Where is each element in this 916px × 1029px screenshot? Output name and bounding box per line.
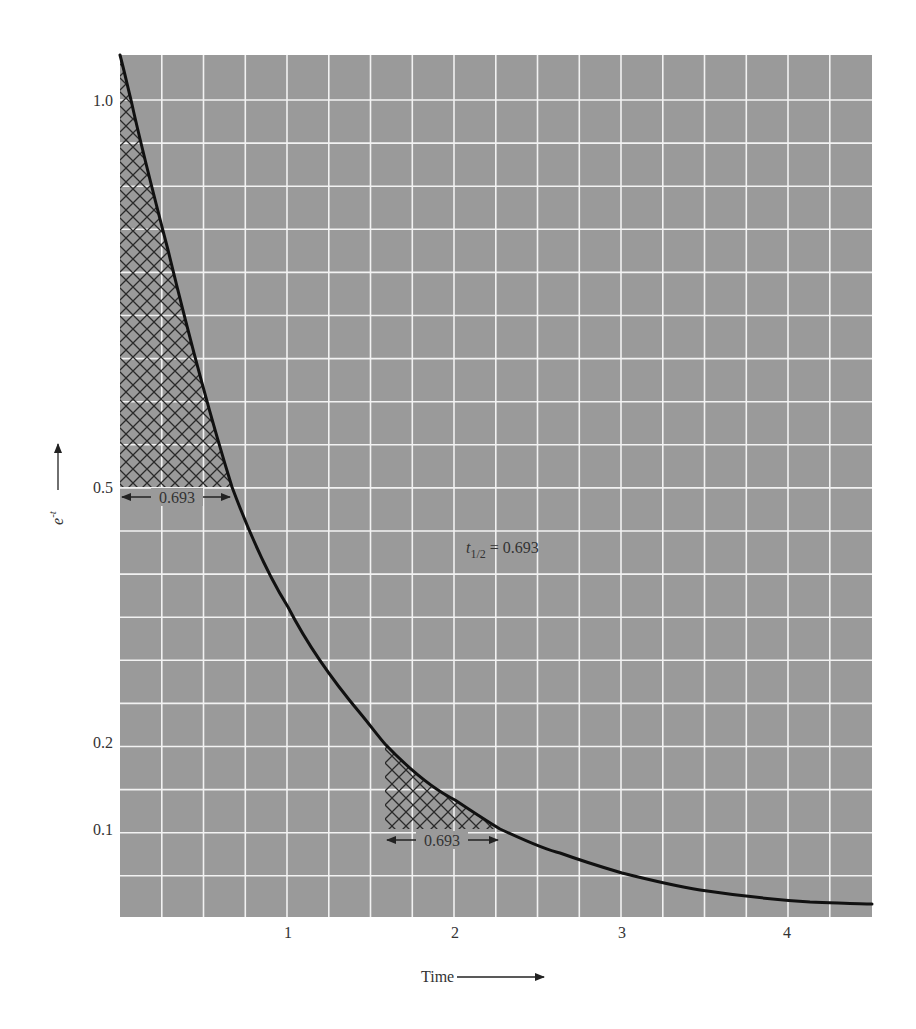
x-axis-title: Time [421,968,454,985]
half-life-chart: 0.693 0.693 t1/2 = 0.693 1.0 0.5 0.2 0.1… [0,0,916,1029]
y-tick-0-1: 0.1 [93,821,113,838]
y-axis-title: e-t [46,510,66,525]
y-tick-0-5: 0.5 [93,479,113,496]
x-tick-4: 4 [783,924,791,941]
x-tick-2: 2 [451,924,459,941]
x-tick-3: 3 [618,924,626,941]
svg-text:e-t: e-t [46,510,66,525]
x-tick-1: 1 [284,924,292,941]
interval-label-1: 0.693 [159,489,195,506]
y-tick-0-2: 0.2 [93,734,113,751]
interval-label-2: 0.693 [424,832,460,849]
y-tick-1-0: 1.0 [93,92,113,109]
